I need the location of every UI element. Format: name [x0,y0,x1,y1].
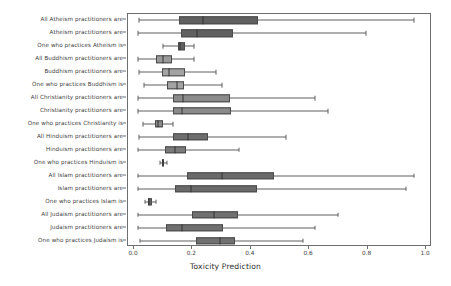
median-line [182,224,183,231]
y-axis-tick-label: One who practices Atheism is [37,42,123,48]
box-iqr [155,120,163,127]
y-axis-tick-mark [123,135,126,136]
whisker-cap [139,238,140,243]
median-line [220,237,221,244]
whisker-cap [155,199,156,204]
whisker-cap [163,44,164,49]
y-axis-tick-mark [123,187,126,188]
whisker-cap [239,148,240,153]
y-axis-tick-label: One who practices Christianity is [28,120,123,126]
whisker-cap [303,238,304,243]
x-axis-tick-mark [191,246,192,249]
y-axis-tick-mark [123,123,126,124]
median-line [202,17,203,24]
median-line [174,146,175,153]
median-line [214,211,215,218]
whisker-cap [315,96,316,101]
median-line [157,120,158,127]
whisker-cap [338,212,339,217]
whisker-cap [328,109,329,114]
y-axis-tick-label: Buddhism practitioners are [44,68,123,74]
boxplot-figure: All Atheism practitioners areAtheism pra… [0,0,451,286]
whisker-cap [138,225,139,230]
y-axis-tick-label: One who practices Islam is [45,198,123,204]
median-line [190,185,191,192]
whisker-line [138,214,338,215]
box-iqr [175,185,257,192]
whisker-cap [193,44,194,49]
whisker-cap [366,31,367,36]
whisker-line [138,227,315,228]
whisker-cap [315,225,316,230]
whisker-cap [173,122,174,127]
y-axis-tick-label: Judaism practitioners are [50,224,123,230]
box-iqr [192,211,237,218]
whisker-cap [166,161,167,166]
y-axis-tick-mark [123,110,126,111]
whisker-cap [138,96,139,101]
plot-area [127,13,431,246]
x-axis-tick-label: 0.4 [245,250,254,256]
y-axis-tick-mark [123,84,126,85]
median-line [163,159,164,166]
median-line [183,94,184,101]
y-axis-tick-label: Atheism practitioners are [50,29,123,35]
whisker-cap [285,135,286,140]
y-axis-tick-label: All Christianity practitioners are [31,94,123,100]
whisker-line [138,111,328,112]
y-axis-tick-label: One who practices Hinduism is [34,159,123,165]
whisker-cap [138,109,139,114]
whisker-cap [142,122,143,127]
box-iqr [156,56,172,63]
x-axis-tick-label: 0.2 [187,250,196,256]
y-axis-tick-mark [123,58,126,59]
whisker-cap [137,186,138,191]
whisker-cap [144,83,145,88]
y-axis-tick-mark [123,97,126,98]
median-line [177,81,178,88]
y-axis-tick-label: All Judaism practitioners are [41,211,123,217]
median-line [149,198,150,205]
whisker-cap [139,135,140,140]
median-line [188,133,189,140]
y-axis-tick-mark [123,45,126,46]
y-axis-tick-label: Hinduism practitioners are [46,146,123,152]
x-axis-title: Toxicity Prediction [0,262,451,271]
median-line [222,172,223,179]
median-line [196,30,197,37]
y-axis-tick-label: Christianity practitioners are [40,107,123,113]
whisker-line [138,175,414,176]
whisker-cap [160,161,161,166]
box-iqr [173,133,208,140]
whisker-cap [405,186,406,191]
median-line [169,69,170,76]
box-iqr [181,30,234,37]
box-iqr [166,224,223,231]
x-axis-tick-mark [425,246,426,249]
x-axis-tick-label: 0.0 [128,250,137,256]
whisker-cap [139,18,140,23]
y-axis-tick-mark [123,161,126,162]
median-line [181,107,182,114]
whisker-cap [414,18,415,23]
y-axis-tick-mark [123,200,126,201]
whisker-cap [139,70,140,75]
whisker-cap [193,57,194,62]
y-axis-tick-mark [123,213,126,214]
whisker-line [139,136,286,137]
whisker-cap [138,212,139,217]
whisker-cap [138,31,139,36]
whisker-cap [145,199,146,204]
box-iqr [196,237,235,244]
whisker-cap [138,57,139,62]
x-axis-tick-mark [308,246,309,249]
y-axis-tick-mark [123,174,126,175]
y-axis-tick-label: All Atheism practitioners are [40,16,123,22]
y-axis-tick-label: All Islam practitioners are [49,172,123,178]
y-axis-tick-mark [123,71,126,72]
whisker-cap [414,174,415,179]
median-line [180,43,181,50]
y-axis-tick-label: Islam practitioners are [58,185,123,191]
y-axis-tick-mark [123,32,126,33]
whisker-cap [138,174,139,179]
